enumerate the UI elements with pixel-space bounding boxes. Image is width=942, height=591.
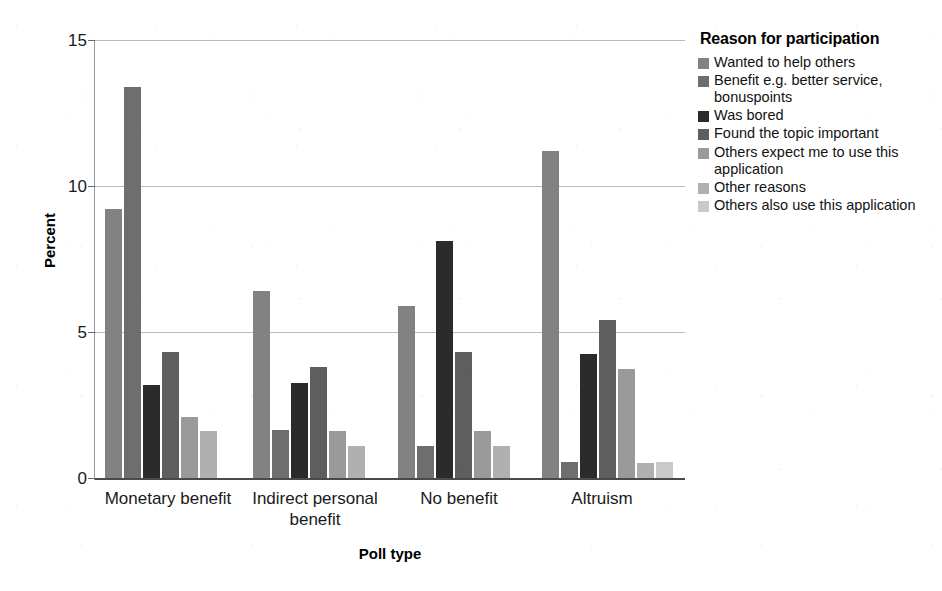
legend-entry-label: Others also use this application: [714, 197, 916, 214]
bar: [493, 446, 510, 478]
legend-swatch-icon: [698, 201, 709, 212]
bar: [542, 151, 559, 478]
legend-swatch-icon: [698, 111, 709, 122]
legend-entry: Was bored: [698, 107, 938, 124]
bar: [398, 306, 415, 478]
bar-group: [398, 40, 546, 478]
legend-entry: Others also use this application: [698, 197, 938, 214]
bar-group: [542, 40, 690, 478]
bar: [329, 431, 346, 478]
legend-swatch-icon: [698, 129, 709, 140]
legend-swatch-icon: [698, 58, 709, 69]
legend-swatch-icon: [698, 76, 709, 87]
y-tick-label: 5: [43, 323, 87, 343]
bar: [455, 352, 472, 478]
bar: [253, 291, 270, 478]
legend-entry-label: Was bored: [714, 107, 784, 124]
bar-group: [253, 40, 401, 478]
legend-entry: Others expect me to use this application: [698, 144, 938, 178]
bar: [637, 463, 654, 478]
bar: [291, 383, 308, 478]
y-tick-label: 15: [43, 31, 87, 51]
bar: [200, 431, 217, 478]
bar: [561, 462, 578, 478]
bar: [162, 352, 179, 478]
legend-entry: Other reasons: [698, 179, 938, 196]
x-axis-line: [95, 478, 685, 480]
bar: [618, 369, 635, 479]
legend-entry: Benefit e.g. better service, bonuspoints: [698, 72, 938, 106]
bar: [436, 241, 453, 478]
legend-entry-label: Other reasons: [714, 179, 806, 196]
y-tick-mark: [88, 40, 95, 41]
bar-chart-figure: 051015 Percent Monetary benefitIndirect …: [0, 0, 942, 591]
legend-entry: Wanted to help others: [698, 54, 938, 71]
legend-entry-label: Found the topic important: [714, 125, 878, 142]
bar: [105, 209, 122, 478]
bar: [272, 430, 289, 478]
y-tick-mark: [88, 186, 95, 187]
y-tick-mark: [88, 478, 95, 479]
y-axis-title: Percent: [41, 213, 58, 268]
x-tick-label: Altruism: [527, 488, 677, 509]
x-tick-label: Indirect personal benefit: [228, 488, 403, 531]
bar: [656, 462, 673, 478]
legend-entry-label: Wanted to help others: [714, 54, 855, 71]
legend-entry-label: Others expect me to use this application: [714, 144, 938, 178]
x-tick-label: No benefit: [384, 488, 534, 509]
y-tick-label: 10: [43, 177, 87, 197]
bar: [348, 446, 365, 478]
x-axis-title: Poll type: [95, 545, 685, 562]
bar: [580, 354, 597, 478]
bar: [143, 385, 160, 478]
bar: [474, 431, 491, 478]
bar: [310, 367, 327, 478]
y-tick-mark: [88, 332, 95, 333]
y-tick-label: 0: [43, 469, 87, 489]
bar: [124, 87, 141, 478]
bar: [599, 320, 616, 478]
legend-entry-label: Benefit e.g. better service, bonuspoints: [714, 72, 938, 106]
legend: Reason for participation Wanted to help …: [698, 30, 938, 215]
legend-swatch-icon: [698, 148, 709, 159]
legend-entry: Found the topic important: [698, 125, 938, 142]
plot-area: 051015: [95, 40, 685, 478]
legend-swatch-icon: [698, 183, 709, 194]
bar: [181, 417, 198, 478]
legend-title: Reason for participation: [700, 30, 938, 48]
bar-group: [105, 40, 253, 478]
legend-entry-list: Wanted to help othersBenefit e.g. better…: [698, 54, 938, 214]
bar: [417, 446, 434, 478]
